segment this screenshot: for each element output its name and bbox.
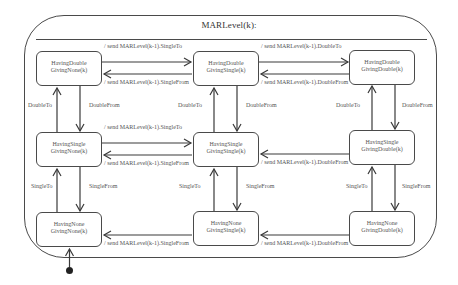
state-having-none-giving-single: HavingNone GivingSingle(k) bbox=[193, 211, 259, 246]
transition-label-double-from: DoubleFrom bbox=[246, 102, 277, 109]
state-name-line2: GivingNone(k) bbox=[37, 228, 101, 236]
state-name-line1: HavingSingle bbox=[37, 141, 101, 149]
state-having-double-giving-double: HavingDouble GivingDouble(k) bbox=[349, 50, 415, 85]
state-name-line1: HavingDouble bbox=[194, 60, 258, 68]
transition-label: / send MARLevel(k-1).DoubleFrom bbox=[261, 79, 348, 86]
state-name-line2: GivingDouble(k) bbox=[350, 227, 414, 235]
transition-label-double-from: DoubleFrom bbox=[402, 102, 433, 109]
transition-label-double-to: DoubleTo bbox=[178, 102, 202, 109]
transition-label: / send MARLevel(k-1).DoubleFrom bbox=[261, 240, 348, 247]
transition-label: / send MARLevel(k-1).DoubleTo bbox=[261, 43, 341, 50]
transition-label-single-to: SingleTo bbox=[346, 183, 368, 190]
state-name-line2: GivingSingle(k) bbox=[194, 227, 258, 235]
state-name-line1: HavingDouble bbox=[350, 59, 414, 67]
transition-label-single-to: SingleTo bbox=[31, 183, 53, 190]
state-name-line2: GivingDouble(k) bbox=[350, 146, 414, 154]
state-having-double-giving-none: HavingDouble GivingNone(k) bbox=[36, 51, 102, 86]
transition-label-double-to: DoubleTo bbox=[336, 102, 360, 109]
transition-label: / send MARLevel(k-1).DoubleFrom bbox=[261, 159, 348, 166]
state-name-line2: GivingDouble(k) bbox=[350, 66, 414, 74]
initial-state-dot-icon bbox=[66, 267, 73, 274]
transition-label-double-from: DoubleFrom bbox=[89, 102, 120, 109]
state-having-none-giving-double: HavingNone GivingDouble(k) bbox=[349, 211, 415, 246]
transition-label-single-from: SingleFrom bbox=[246, 183, 274, 190]
state-name-line2: GivingNone(k) bbox=[37, 148, 101, 156]
state-name-line2: GivingSingle(k) bbox=[194, 148, 258, 156]
transition-label: / send MARLevel(k-1).SingleTo bbox=[104, 124, 182, 131]
transition-label: / send MARLevel(k-1).SingleFrom bbox=[104, 160, 189, 167]
state-name-line2: GivingNone(k) bbox=[37, 67, 101, 75]
transition-label-single-to: SingleTo bbox=[179, 183, 201, 190]
transition-label-single-from: SingleFrom bbox=[402, 183, 430, 190]
transition-label-double-to: DoubleTo bbox=[28, 102, 52, 109]
state-having-double-giving-single: HavingDouble GivingSingle(k) bbox=[193, 51, 259, 86]
transition-label: / send MARLevel(k-1).SingleFrom bbox=[104, 240, 189, 247]
state-having-single-giving-double: HavingSingle GivingDouble(k) bbox=[349, 130, 415, 165]
state-having-none-giving-none: HavingNone GivingNone(k) bbox=[36, 212, 102, 247]
state-name-line1: HavingNone bbox=[37, 221, 101, 229]
state-having-single-giving-single: HavingSingle GivingSingle(k) bbox=[193, 132, 259, 167]
state-name-line1: HavingSingle bbox=[350, 139, 414, 147]
state-name-line1: HavingDouble bbox=[37, 60, 101, 68]
transition-label: / send MARLevel(k-1).SingleFrom bbox=[104, 79, 189, 86]
transition-label: / send MARLevel(k-1).SingleTo bbox=[104, 43, 182, 50]
state-name-line1: HavingNone bbox=[350, 220, 414, 228]
state-name-line1: HavingNone bbox=[194, 220, 258, 228]
state-name-line2: GivingSingle(k) bbox=[194, 67, 258, 75]
state-name-line1: HavingSingle bbox=[194, 141, 258, 149]
state-having-single-giving-none: HavingSingle GivingNone(k) bbox=[36, 132, 102, 167]
state-machine-diagram: MARLevel(k): bbox=[0, 0, 458, 285]
transition-label-single-from: SingleFrom bbox=[89, 183, 117, 190]
